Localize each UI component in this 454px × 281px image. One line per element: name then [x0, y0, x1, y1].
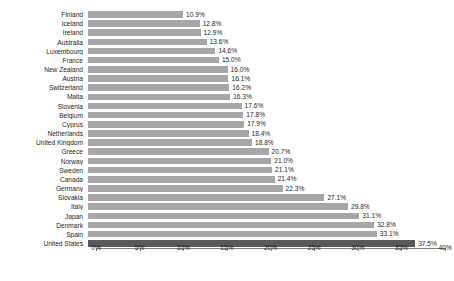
bar-value-label: 17.6%	[245, 102, 264, 109]
bar-track: 16.1%	[88, 74, 454, 83]
plot-area: Finland10.9%Iceland12.8%Ireland12.9%Aust…	[0, 10, 454, 253]
bar-category-label: New Zealand	[0, 66, 88, 73]
bar	[88, 194, 324, 201]
x-axis-tick-label: 40%	[438, 243, 451, 252]
x-axis-tick-labels: 0%5%10%15%20%25%30%35%40%	[0, 243, 454, 255]
bar-value-label: 15.0%	[222, 56, 241, 63]
bar-row: Iceland12.8%	[0, 19, 454, 28]
bar	[88, 66, 228, 73]
bar-value-label: 21.0%	[274, 157, 293, 164]
bar-track: 22.3%	[88, 184, 454, 193]
bar-category-label: Australia	[0, 39, 88, 46]
bar	[88, 48, 215, 55]
x-axis-tick-label: 30%	[351, 243, 364, 252]
bar-row: France15.0%	[0, 56, 454, 65]
x-axis-tick-label: 35%	[395, 243, 408, 252]
bar-row: Japan31.1%	[0, 211, 454, 220]
bar-track: 16.2%	[88, 83, 454, 92]
bar-track: 20.7%	[88, 147, 454, 156]
bar-row: Switzerland16.2%	[0, 83, 454, 92]
bar-value-label: 20.7%	[272, 148, 291, 155]
x-axis-tick-label: 20%	[264, 243, 277, 252]
chart-title	[60, 0, 400, 8]
bar-track: 21.4%	[88, 175, 454, 184]
chart-footnote	[22, 271, 442, 281]
bar-value-label: 21.1%	[275, 166, 294, 173]
bar	[88, 121, 244, 128]
bar	[88, 167, 272, 174]
x-axis-tick-label: 15%	[220, 243, 233, 252]
bar-value-label: 29.8%	[351, 203, 370, 210]
bar	[88, 75, 228, 82]
bar-category-label: Slovenia	[0, 103, 88, 110]
bar	[88, 29, 201, 36]
bar-row: Luxembourg14.6%	[0, 47, 454, 56]
bar	[88, 112, 243, 119]
bar-track: 32.8%	[88, 221, 454, 230]
bar-category-label: France	[0, 57, 88, 64]
bar-row: Australia13.6%	[0, 37, 454, 46]
bar-category-label: Belgium	[0, 112, 88, 119]
bar-track: 13.6%	[88, 37, 454, 46]
bar-row: Slovenia17.6%	[0, 102, 454, 111]
x-axis-tick-label: 0%	[91, 243, 101, 252]
bar-value-label: 14.6%	[218, 47, 237, 54]
bar-value-label: 16.1%	[231, 75, 250, 82]
x-axis-tick-label: 5%	[135, 243, 145, 252]
bar	[88, 185, 283, 192]
bar	[88, 57, 219, 64]
bar-track: 29.8%	[88, 202, 454, 211]
bar	[88, 84, 229, 91]
bar-row: Germany22.3%	[0, 184, 454, 193]
bar-category-label: Denmark	[0, 222, 88, 229]
bar-category-label: Austria	[0, 75, 88, 82]
bar-track: 12.8%	[88, 19, 454, 28]
bar-row: Slovakia27.1%	[0, 193, 454, 202]
bar	[88, 39, 207, 46]
bar	[88, 203, 348, 210]
bar-value-label: 12.8%	[203, 20, 222, 27]
bar-row: Italy29.8%	[0, 202, 454, 211]
bar-category-label: Slovakia	[0, 194, 88, 201]
bar-value-label: 17.8%	[246, 111, 265, 118]
bar-value-label: 32.8%	[377, 221, 396, 228]
bar	[88, 213, 359, 220]
bar	[88, 130, 249, 137]
bar-row: New Zealand16.0%	[0, 65, 454, 74]
bar-value-label: 31.1%	[362, 212, 381, 219]
bar-value-label: 16.3%	[233, 93, 252, 100]
bar	[88, 103, 242, 110]
bar-category-label: Switzerland	[0, 84, 88, 91]
bar-row: Finland10.9%	[0, 10, 454, 19]
bar-track: 17.6%	[88, 102, 454, 111]
bar-row: Malta16.3%	[0, 92, 454, 101]
bar-track: 17.8%	[88, 111, 454, 120]
bar-value-label: 17.9%	[247, 120, 266, 127]
bar-row: Norway21.0%	[0, 157, 454, 166]
bar-category-label: Sweden	[0, 167, 88, 174]
bar-track: 21.0%	[88, 157, 454, 166]
bar-category-label: Germany	[0, 185, 88, 192]
bar-value-label: 18.4%	[252, 130, 271, 137]
bar-category-label: United Kingdom	[0, 139, 88, 146]
bar-row: Sweden21.1%	[0, 166, 454, 175]
bar-row: Greece20.7%	[0, 147, 454, 156]
bar-category-label: Luxembourg	[0, 48, 88, 55]
bar	[88, 20, 200, 27]
bar-value-label: 18.8%	[255, 139, 274, 146]
bar-track: 31.1%	[88, 211, 454, 220]
bar-row: Ireland12.9%	[0, 28, 454, 37]
bar	[88, 139, 252, 146]
bar-value-label: 22.3%	[286, 185, 305, 192]
bar-category-label: Ireland	[0, 29, 88, 36]
bar	[88, 176, 275, 183]
bar-row: Belgium17.8%	[0, 111, 454, 120]
bar-category-label: Malta	[0, 93, 88, 100]
bar-category-label: Canada	[0, 176, 88, 183]
bar-row: Spain33.1%	[0, 230, 454, 239]
bar-track: 17.9%	[88, 120, 454, 129]
x-axis-tick-label: 10%	[177, 243, 190, 252]
bar-track: 16.3%	[88, 92, 454, 101]
bar-series-list: Finland10.9%Iceland12.8%Ireland12.9%Aust…	[0, 10, 454, 248]
bar-row: Netherlands18.4%	[0, 129, 454, 138]
